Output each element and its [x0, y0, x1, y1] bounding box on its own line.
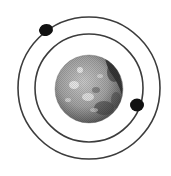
inner-moon — [130, 99, 144, 112]
planet — [55, 55, 123, 123]
planet-moons-diagram — [0, 0, 171, 176]
outer-moon — [38, 22, 55, 37]
diagram-canvas — [0, 0, 171, 176]
